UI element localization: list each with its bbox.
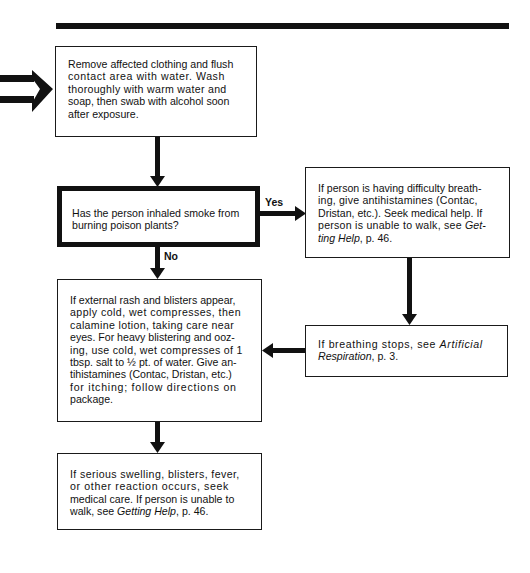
cross-reference-getting-help: ting Help	[318, 232, 360, 244]
text-segment: walk, see	[70, 505, 117, 517]
box-text-line: tihistamines (Contac, Dristan, etc.)	[70, 368, 251, 380]
box-text-line: thoroughly with warm water and	[68, 83, 246, 95]
decision-question-line: Has the person inhaled smoke from	[72, 207, 245, 219]
box-text-line: medical care. If person is unable to	[70, 493, 251, 505]
step-breathing-stops-box: If breathing stops, see Artificial Respi…	[305, 325, 508, 377]
box-text-line: for itching; follow directions on	[70, 381, 251, 393]
step-external-rash-box: If external rash and blisters appear, ap…	[57, 279, 262, 422]
arrow-right-icon	[260, 206, 306, 221]
box-text-line: If serious swelling, blisters, fever,	[70, 468, 251, 480]
cross-reference-artificial-respiration: Respiration	[318, 350, 372, 362]
box-text-line: calamine lotion, taking care near	[70, 319, 251, 331]
text-segment: person is unable to walk, see	[318, 219, 465, 231]
box-text-line: If breathing stops, see Artificial	[318, 338, 497, 350]
box-text-line: Remove affected clothing and flush	[68, 58, 246, 70]
box-text-line: Dristan, etc.). Seek medical help. If	[318, 207, 499, 219]
edge-label-yes: Yes	[265, 196, 283, 208]
cross-reference-getting-help: Getting Help	[117, 505, 176, 517]
text-segment: , p. 46.	[360, 232, 392, 244]
box-text-line: package.	[70, 393, 251, 405]
box-text-line: contact area with water. Wash	[68, 70, 246, 82]
arrow-left-icon	[262, 343, 306, 358]
box-text-line: apply cold, wet compresses, then	[70, 306, 251, 318]
edge-label-no: No	[164, 250, 178, 262]
box-text-line: person is unable to walk, see Get-	[318, 219, 499, 231]
box-text-line: tbsp. salt to ½ pt. of water. Give an-	[70, 356, 251, 368]
arrow-down-icon	[150, 422, 165, 453]
box-text-line: walk, see Getting Help, p. 46.	[70, 505, 251, 517]
box-text-line: or other reaction occurs, seek	[70, 480, 251, 492]
box-text-line: eyes. For heavy blistering and ooz-	[70, 331, 251, 343]
arrow-down-icon	[150, 247, 165, 279]
text-segment: , p. 46.	[176, 505, 208, 517]
box-text-line: ing, use cold, wet compresses of 1	[70, 344, 251, 356]
box-text-line: If person is having difficulty breath-	[318, 182, 499, 194]
cross-reference-artificial-respiration: Artificial	[440, 338, 483, 350]
decision-inhaled-smoke-box: Has the person inhaled smoke from burnin…	[57, 186, 260, 247]
decision-question-line: burning poison plants?	[72, 219, 245, 231]
step-serious-reaction-box: If serious swelling, blisters, fever, or…	[57, 453, 262, 530]
text-segment: , p. 3.	[372, 350, 399, 362]
box-text-line: ting Help, p. 46.	[318, 232, 499, 244]
arrow-down-icon	[402, 258, 417, 325]
step-difficulty-breathing-box: If person is having difficulty breath- i…	[305, 167, 510, 258]
text-segment: If breathing stops, see	[318, 338, 440, 350]
box-text-line: after exposure.	[68, 108, 246, 120]
box-text-line: ing, give antihistamines (Contac,	[318, 194, 499, 206]
arrow-down-icon	[150, 137, 165, 187]
top-rule-divider	[56, 23, 509, 29]
cross-reference-getting-help: Get-	[465, 219, 486, 231]
double-arrow-right-icon	[0, 70, 53, 112]
box-text-line: If external rash and blisters appear,	[70, 294, 251, 306]
step-remove-clothing-box: Remove affected clothing and flush conta…	[55, 46, 257, 137]
box-text-line: soap, then swab with alcohol soon	[68, 95, 246, 107]
box-text-line: Respiration, p. 3.	[318, 350, 497, 362]
